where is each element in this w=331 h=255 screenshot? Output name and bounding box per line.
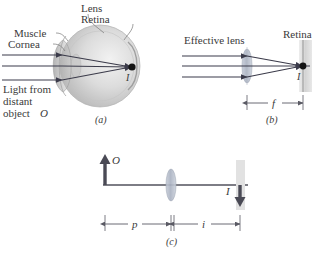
label-light-line3: object bbox=[3, 107, 30, 119]
optics-eye-figure: Lens Retina Muscle Cornea Light from dis… bbox=[0, 0, 331, 255]
label-object-symbol-c: O bbox=[112, 154, 120, 166]
label-retina-b: Retina bbox=[283, 28, 312, 40]
label-retina-a: Retina bbox=[81, 13, 110, 25]
object-arrow-head bbox=[100, 154, 111, 164]
label-cornea: Cornea bbox=[8, 38, 40, 50]
caption-b: (b) bbox=[266, 114, 278, 126]
label-image-distance: i bbox=[202, 218, 205, 230]
focal-point-dot-b bbox=[300, 63, 307, 70]
label-light-line2: distant bbox=[3, 95, 32, 107]
label-object-symbol-a: O bbox=[40, 107, 48, 119]
object-arrow bbox=[100, 154, 111, 185]
label-effective-lens: Effective lens bbox=[184, 34, 245, 46]
truncated-caption-strip bbox=[0, 0, 331, 2]
panel-b: Effective lens Retina I f (b) bbox=[182, 28, 312, 126]
caption-c: (c) bbox=[166, 236, 178, 248]
figure-canvas: Lens Retina Muscle Cornea Light from dis… bbox=[0, 0, 331, 255]
label-image-symbol-b: I bbox=[296, 71, 301, 82]
label-light-line1: Light from bbox=[3, 83, 51, 95]
thin-lens-shape-c bbox=[166, 169, 176, 201]
focal-point-dot-a bbox=[128, 63, 135, 70]
panel-c: O I p bbox=[100, 154, 249, 248]
ray-b3-refracted bbox=[247, 66, 302, 77]
leader-muscle bbox=[56, 33, 68, 41]
caption-a: (a) bbox=[95, 114, 107, 126]
label-image-symbol-c: I bbox=[225, 185, 231, 197]
ray-b1-refracted bbox=[247, 56, 302, 66]
panel-a: Lens Retina Muscle Cornea Light from dis… bbox=[2, 2, 140, 126]
label-image-symbol-a: I bbox=[125, 72, 130, 83]
label-object-distance: p bbox=[131, 218, 138, 230]
